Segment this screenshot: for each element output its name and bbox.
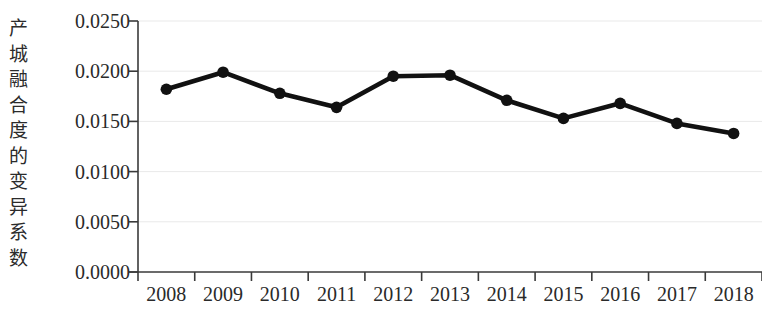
data-point-marker <box>161 83 173 95</box>
x-axis-tick-label: 2008 <box>138 283 194 305</box>
x-axis-tick-labels: 2008200920102011201220132014201520162017… <box>0 283 762 313</box>
x-axis-tick-label: 2016 <box>592 283 648 305</box>
data-point-marker <box>387 70 399 82</box>
line-chart: 产 城 融 合 度 的 变 异 系 数 0.00000.00500.01000.… <box>0 0 762 317</box>
data-point-marker <box>501 95 513 107</box>
x-axis-tick-label: 2013 <box>422 283 478 305</box>
data-point-marker <box>331 102 343 114</box>
gridlines <box>138 21 762 272</box>
x-axis-tick-label: 2011 <box>309 283 365 305</box>
series-polyline <box>166 72 733 133</box>
data-point-marker <box>274 87 286 99</box>
data-line-series <box>166 72 733 133</box>
data-point-marker <box>671 118 683 130</box>
x-axis-tick-label: 2015 <box>535 283 591 305</box>
x-axis-tick-label: 2014 <box>479 283 535 305</box>
x-axis-tick-label: 2017 <box>649 283 705 305</box>
x-axis-tick-label: 2018 <box>706 283 762 305</box>
x-axis-tick-label: 2009 <box>195 283 251 305</box>
data-point-marker <box>728 128 740 140</box>
x-axis-ticks <box>138 272 762 281</box>
data-point-marker <box>558 113 570 125</box>
data-point-marker <box>217 66 229 78</box>
data-point-marker <box>444 69 456 81</box>
data-markers <box>161 66 740 139</box>
x-axis-tick-label: 2012 <box>365 283 421 305</box>
x-axis-tick-label: 2010 <box>252 283 308 305</box>
y-axis-ticks <box>129 21 138 272</box>
data-point-marker <box>614 98 626 110</box>
plot-area <box>0 0 762 317</box>
